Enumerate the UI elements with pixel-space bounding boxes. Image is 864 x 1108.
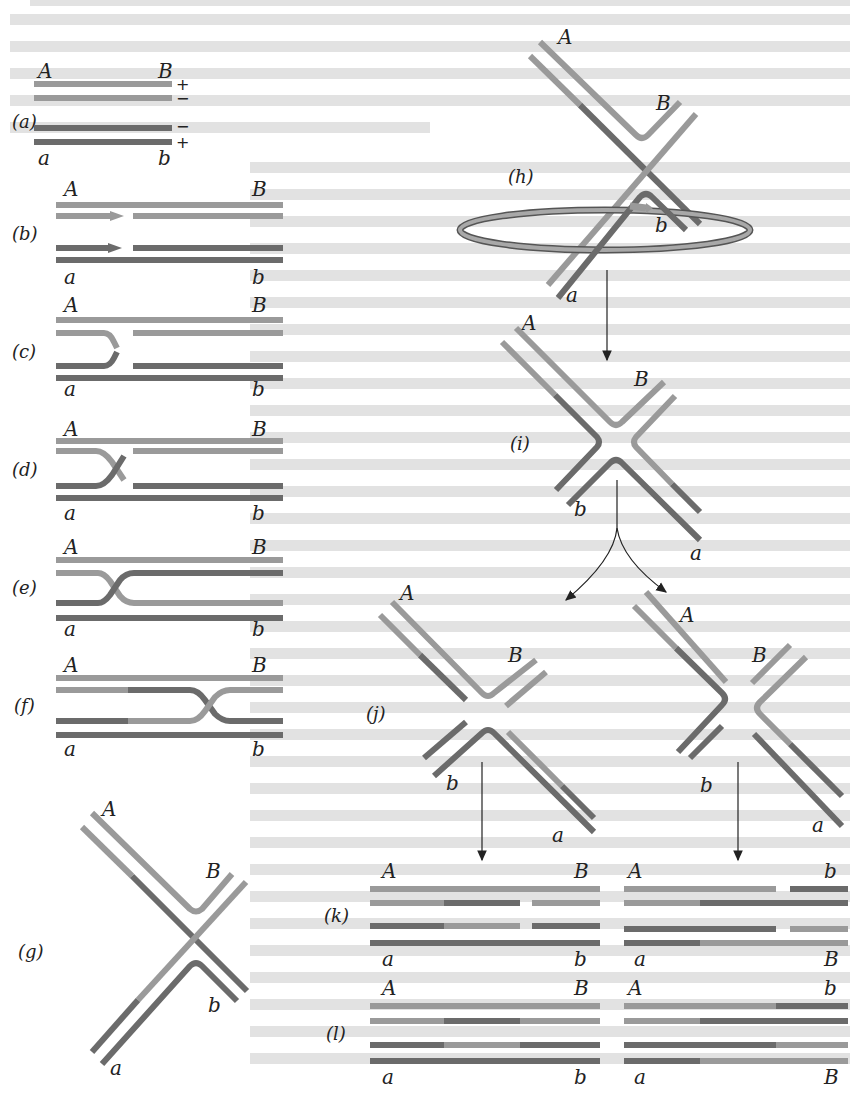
- panel-label-g: (g): [18, 941, 44, 962]
- marker-A: A: [62, 535, 78, 559]
- marker-B: B: [251, 417, 267, 441]
- marker-A: A: [62, 177, 78, 201]
- marker-a: a: [64, 377, 76, 401]
- panel-label-f: (f): [14, 695, 35, 716]
- polarity-plus: +: [176, 133, 189, 152]
- marker-b: b: [574, 1065, 587, 1089]
- panel-a: (a) A B + − − + a b: [12, 59, 189, 170]
- marker-a: a: [382, 947, 394, 971]
- arrow-i-to-j-right: [617, 528, 666, 592]
- panel-label-b: (b): [12, 223, 38, 244]
- marker-B: B: [823, 947, 839, 971]
- panel-l: (l) A B a b A b a B: [326, 976, 848, 1089]
- marker-a: a: [64, 501, 76, 525]
- holliday-recombination-diagram: (a) A B + − − + a b (b) A B a b (c) A B: [0, 0, 864, 1108]
- panel-label-k: (k): [324, 905, 349, 926]
- marker-B: B: [205, 859, 221, 883]
- marker-a: a: [552, 823, 564, 847]
- marker-A: A: [100, 797, 116, 821]
- marker-A: A: [678, 603, 694, 627]
- panel-e: (e) A B a b: [12, 535, 283, 641]
- marker-a: a: [38, 146, 50, 170]
- panel-label-d: (d): [12, 459, 38, 480]
- marker-A: A: [626, 976, 642, 1000]
- marker-A: A: [380, 976, 396, 1000]
- marker-a: a: [690, 541, 702, 565]
- marker-a: a: [566, 283, 578, 307]
- marker-a: a: [64, 737, 76, 761]
- panel-b: (b) A B a b: [12, 177, 283, 289]
- panel-label-l: (l): [326, 1023, 346, 1044]
- marker-A: A: [62, 293, 78, 317]
- marker-B: B: [823, 1065, 839, 1089]
- panel-label-c: (c): [12, 341, 36, 362]
- marker-b: b: [252, 737, 265, 761]
- polarity-minus: −: [176, 89, 189, 108]
- panel-label-j: (j): [366, 703, 386, 724]
- marker-a: a: [812, 813, 824, 837]
- marker-b: b: [574, 497, 587, 521]
- marker-a: a: [110, 1056, 122, 1080]
- marker-A: A: [62, 417, 78, 441]
- panel-label-a: (a): [12, 111, 37, 132]
- marker-a: a: [634, 1065, 646, 1089]
- marker-a: a: [382, 1065, 394, 1089]
- marker-B: B: [507, 643, 523, 667]
- marker-a: a: [634, 947, 646, 971]
- panel-label-e: (e): [12, 577, 37, 598]
- marker-b: b: [158, 146, 171, 170]
- marker-A: A: [556, 25, 572, 49]
- marker-B: B: [633, 367, 649, 391]
- marker-B: B: [573, 859, 589, 883]
- marker-b: b: [252, 377, 265, 401]
- marker-b: b: [655, 213, 668, 237]
- marker-B: B: [251, 653, 267, 677]
- panel-d: (d) A B a b: [12, 417, 283, 525]
- panel-i: (i) A B b a: [502, 311, 702, 565]
- marker-A: A: [626, 859, 642, 883]
- marker-b: b: [252, 265, 265, 289]
- marker-B: B: [251, 293, 267, 317]
- marker-B: B: [157, 59, 173, 83]
- panel-k: (k) A B a b A b a B: [324, 859, 848, 971]
- panel-c: (c) A B a b: [12, 293, 283, 401]
- marker-b: b: [252, 501, 265, 525]
- marker-b: b: [574, 947, 587, 971]
- panel-h: (h) A B b a: [460, 25, 750, 307]
- marker-B: B: [251, 177, 267, 201]
- panel-label-h: (h): [508, 166, 534, 187]
- marker-B: B: [251, 535, 267, 559]
- marker-A: A: [398, 581, 414, 605]
- marker-B: B: [573, 976, 589, 1000]
- marker-a: a: [64, 265, 76, 289]
- marker-b: b: [446, 771, 459, 795]
- marker-b: b: [208, 993, 221, 1017]
- marker-b: b: [824, 976, 837, 1000]
- marker-b: b: [824, 859, 837, 883]
- panel-g: (g) A B b a: [18, 797, 247, 1080]
- marker-A: A: [62, 653, 78, 677]
- panel-label-i: (i): [510, 433, 530, 454]
- marker-a: a: [64, 617, 76, 641]
- marker-B: B: [751, 643, 767, 667]
- panel-f: (f) A B a b: [14, 653, 283, 761]
- marker-A: A: [36, 59, 52, 83]
- marker-b: b: [252, 617, 265, 641]
- marker-b: b: [700, 773, 713, 797]
- marker-A: A: [380, 859, 396, 883]
- panel-j-left: (j) A B b a: [366, 581, 594, 847]
